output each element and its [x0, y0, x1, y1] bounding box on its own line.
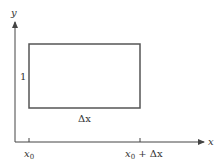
- rectangle: [29, 44, 140, 108]
- x-axis-label: x: [208, 136, 214, 147]
- rectangle-height-label: 1: [20, 71, 26, 82]
- rectangle-width-label: Δx: [78, 113, 91, 124]
- diagram-canvas: y x 1 Δx x0 x0 + Δx: [0, 0, 216, 164]
- tick-label-x0: x0: [24, 148, 34, 161]
- y-axis-label: y: [10, 7, 17, 18]
- tick-label-x0-plus-dx: x0 + Δx: [125, 148, 163, 161]
